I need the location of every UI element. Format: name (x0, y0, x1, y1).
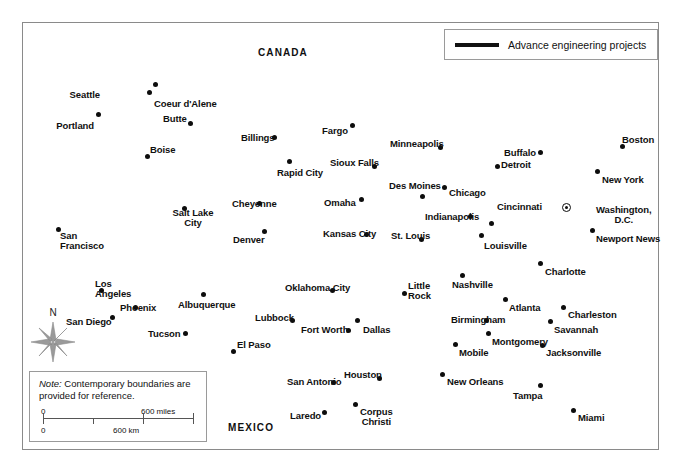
scale-miles-end: 600 miles (141, 407, 175, 416)
city-label-st-louis: St. Louis (391, 231, 430, 241)
scale-tick-mid-miles (93, 418, 94, 424)
city-label-birmingham: Birmingham (451, 315, 505, 325)
legend-label: Advance engineering projects (508, 39, 646, 51)
city-label-phoenix: Phoenix (120, 303, 156, 313)
city-marker-new-orleans (440, 372, 445, 377)
city-label-charleston: Charleston (568, 310, 617, 320)
city-label-portland: Portland (56, 121, 94, 131)
city-marker-chicago (442, 185, 447, 190)
city-label-chicago: Chicago (449, 188, 486, 198)
city-marker-savannah (548, 319, 553, 324)
city-marker-omaha (359, 197, 364, 202)
city-marker-dallas (355, 318, 360, 323)
city-label-cincinnati: Cincinnati (497, 202, 542, 212)
country-label-mexico: MEXICO (228, 422, 274, 433)
city-marker-detroit (495, 164, 500, 169)
city-marker-seattle (153, 82, 158, 87)
city-marker-newport-news (590, 228, 595, 233)
city-marker-el-paso (231, 349, 236, 354)
country-label-canada: CANADA (258, 47, 308, 58)
city-marker-mobile (453, 342, 458, 347)
city-label-nashville: Nashville (452, 280, 493, 290)
city-marker-new-york (595, 169, 600, 174)
city-marker-rapid-city (287, 159, 292, 164)
city-label-buffalo: Buffalo (504, 148, 536, 158)
city-marker-louisville (479, 233, 484, 238)
city-label-san-francisco: SanFrancisco (60, 231, 104, 251)
scale-tick-end (193, 413, 194, 424)
map-container: CANADAMEXICO SeattleCoeur d'AlenePortlan… (0, 0, 681, 475)
city-label-miami: Miami (578, 413, 604, 423)
note-prefix: Note: (39, 378, 62, 389)
city-label-billings: Billings (241, 133, 275, 143)
city-label-new-orleans: New Orleans (447, 377, 503, 387)
city-marker-fargo (350, 123, 355, 128)
city-marker-coeur-d-alene (147, 90, 152, 95)
compass-rose: N (30, 307, 76, 363)
city-marker-corpus-christi (353, 402, 358, 407)
city-label-des-moines: Des Moines (389, 181, 441, 191)
scale-tick-km-mid (143, 413, 144, 424)
city-marker-jacksonville (540, 343, 545, 348)
city-marker-cincinnati (489, 221, 494, 226)
city-marker-des-moines (420, 194, 425, 199)
city-label-kansas-city: Kansas City (323, 229, 376, 239)
city-label-boise: Boise (150, 145, 175, 155)
city-label-oklahoma-city: Oklahoma City (285, 283, 350, 293)
city-label-tampa: Tampa (513, 391, 542, 401)
compass-north-label: N (30, 307, 76, 318)
city-label-coeur-d-alene: Coeur d'Alene (154, 99, 217, 109)
scale-km-start: 0 (41, 426, 45, 435)
city-label-minneapolis: Minneapolis (390, 139, 444, 149)
capital-marker-washington-d-c (562, 203, 571, 212)
city-label-atlanta: Atlanta (509, 303, 541, 313)
scale-tick-0 (43, 413, 44, 424)
city-label-san-antonio: San Antonio (287, 377, 342, 387)
city-label-cheyenne: Cheyenne (232, 199, 277, 209)
city-marker-tucson (183, 331, 188, 336)
city-label-seattle: Seattle (70, 90, 100, 100)
city-marker-laredo (322, 410, 327, 415)
city-marker-butte (188, 121, 193, 126)
city-label-fort-worth: Fort Worth (301, 325, 348, 335)
city-label-louisville: Louisville (484, 241, 527, 251)
city-label-rapid-city: Rapid City (277, 168, 323, 178)
city-marker-charlotte (538, 261, 543, 266)
note-body: Contemporary boundaries are provided for… (39, 378, 191, 401)
city-label-savannah: Savannah (554, 325, 598, 335)
city-label-dallas: Dallas (363, 325, 390, 335)
city-marker-portland (96, 112, 101, 117)
city-marker-tampa (538, 383, 543, 388)
city-label-los-angeles: LosAngeles (95, 279, 131, 299)
city-label-charlotte: Charlotte (545, 267, 586, 277)
city-label-fargo: Fargo (322, 126, 348, 136)
city-label-salt-lake-city: Salt LakeCity (173, 208, 214, 228)
city-marker-nashville (460, 273, 465, 278)
advance-engineering-projects-swatch-icon (455, 43, 499, 47)
city-label-boston: Boston (622, 135, 654, 145)
city-label-mobile: Mobile (459, 348, 488, 358)
compass-rose-icon (30, 321, 76, 363)
city-label-little-rock: LittleRock (408, 281, 431, 301)
city-label-indianapolis: Indianapolis (425, 212, 479, 222)
city-label-tucson: Tucson (148, 329, 180, 339)
map-legend: Advance engineering projects (444, 29, 658, 60)
city-label-corpus-christi: CorpusChristi (360, 407, 393, 427)
scale-bar-line (43, 418, 193, 419)
city-marker-montgomery (486, 331, 491, 336)
note-and-scale-box: Note: Contemporary boundaries are provid… (29, 371, 207, 442)
city-label-albuquerque: Albuquerque (178, 300, 235, 310)
city-label-el-paso: El Paso (237, 340, 271, 350)
scale-km-mid: 600 km (113, 426, 139, 435)
city-marker-albuquerque (201, 292, 206, 297)
city-label-newport-news: Newport News (596, 234, 660, 244)
city-marker-miami (571, 408, 576, 413)
city-label-washington-d-c: Washington,D.C. (596, 205, 652, 225)
city-marker-atlanta (503, 297, 508, 302)
city-label-laredo: Laredo (290, 411, 321, 421)
city-label-denver: Denver (233, 235, 265, 245)
city-label-lubbock: Lubbock (255, 313, 294, 323)
city-label-new-york: New York (602, 175, 644, 185)
city-label-sioux-falls: Sioux Falls (330, 158, 379, 168)
city-marker-little-rock (402, 291, 407, 296)
